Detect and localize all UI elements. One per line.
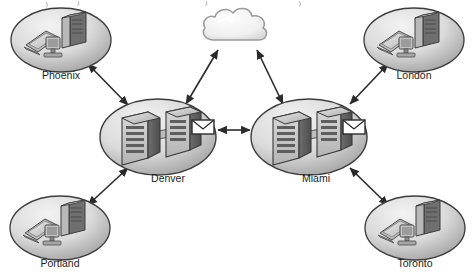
tower-pc-icon <box>416 200 440 236</box>
desktop-monitor-icon <box>397 37 415 57</box>
site-phoenix[interactable]: Phoenix <box>11 8 111 81</box>
link-miami-toronto <box>350 168 388 205</box>
tower-pc-icon <box>61 200 85 236</box>
internet-cloud[interactable] <box>203 8 266 40</box>
site-toronto[interactable]: Toronto <box>365 196 465 269</box>
site-miami[interactable]: Miami <box>251 99 367 184</box>
site-ellipse <box>365 196 465 260</box>
desktop-monitor-icon <box>398 225 416 245</box>
site-label-london: London <box>396 69 431 81</box>
link-miami-london <box>350 64 388 104</box>
tower-pc-icon <box>62 12 86 48</box>
site-label-denver: Denver <box>151 172 185 184</box>
site-label-toronto: Toronto <box>397 257 432 269</box>
site-denver[interactable]: Denver <box>100 99 216 184</box>
site-portland[interactable]: Portland <box>10 196 110 269</box>
mail-envelope-icon <box>192 120 214 134</box>
mail-envelope-icon <box>343 120 365 134</box>
network-topology-diagram: Phoenix London <box>0 0 473 274</box>
site-ellipse <box>364 8 464 72</box>
link-denver-cloud <box>186 50 218 104</box>
site-label-portland: Portland <box>40 257 79 269</box>
site-label-phoenix: Phoenix <box>42 69 81 81</box>
site-ellipse <box>10 196 110 260</box>
link-miami-cloud <box>257 50 283 104</box>
site-london[interactable]: London <box>364 8 464 81</box>
desktop-monitor-icon <box>44 37 62 57</box>
link-phoenix-denver <box>88 64 128 105</box>
tower-pc-icon <box>415 12 439 48</box>
link-portland-denver <box>88 168 128 205</box>
clipped-title-remnant <box>46 1 301 7</box>
site-ellipse <box>11 8 111 72</box>
site-label-miami: Miami <box>302 172 330 184</box>
desktop-monitor-icon <box>43 225 61 245</box>
